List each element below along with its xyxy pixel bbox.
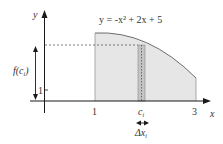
y-axis-label: y — [32, 9, 38, 20]
y-tick-label-1: 1 — [38, 85, 43, 96]
fc-label: f(ci) — [13, 65, 29, 77]
x-axis-arrow-icon — [203, 98, 211, 104]
svg-text:ci: ci — [138, 106, 144, 118]
equation-label: y = -x² + 2x + 5 — [99, 14, 162, 25]
delta-x-label: Δxi — [134, 127, 147, 139]
riemann-strip-diagram: y x y = -x² + 2x + 5 1 3 1 f(ci) ci Δxi — [0, 0, 223, 144]
ci-label: ci — [138, 106, 144, 118]
fc-arrow-up-icon — [33, 46, 38, 52]
x-axis-label: x — [209, 108, 215, 119]
dx-arrow-left-icon — [136, 121, 141, 126]
svg-text:Δxi: Δxi — [134, 127, 147, 139]
shaded-region — [95, 33, 196, 101]
svg-text:f(ci): f(ci) — [13, 65, 29, 77]
x-tick-label-3: 3 — [192, 106, 197, 117]
y-axis-arrow-icon — [42, 10, 48, 18]
x-tick-label-1: 1 — [92, 106, 97, 117]
dx-arrow-right-icon — [144, 121, 149, 126]
